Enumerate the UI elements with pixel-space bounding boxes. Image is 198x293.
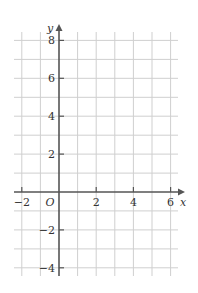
y-tick-label: −2 bbox=[39, 224, 55, 237]
y-tick-label: 4 bbox=[48, 110, 55, 123]
origin-label: O bbox=[45, 196, 54, 209]
x-tick-label: 2 bbox=[93, 196, 100, 209]
y-tick-label: 6 bbox=[48, 72, 55, 85]
x-axis bbox=[14, 187, 185, 196]
coordinate-graph: −2 2 4 6 8 6 4 2 −2 −4 y x O bbox=[0, 0, 198, 293]
y-axis bbox=[56, 24, 65, 276]
x-tick-labels: −2 2 4 6 bbox=[14, 196, 174, 209]
y-axis-arrow-icon bbox=[56, 24, 63, 31]
x-tick-label: −2 bbox=[14, 196, 30, 209]
x-axis-label: x bbox=[180, 196, 187, 209]
x-tick-label: 4 bbox=[130, 196, 137, 209]
x-tick-label: 6 bbox=[167, 196, 174, 209]
grid-lines bbox=[14, 32, 178, 276]
y-tick-label: 8 bbox=[48, 34, 55, 47]
x-axis-arrow-icon bbox=[178, 189, 185, 196]
y-tick-label: 2 bbox=[48, 148, 55, 161]
y-tick-label: −4 bbox=[39, 262, 55, 275]
y-axis-label: y bbox=[46, 22, 54, 35]
